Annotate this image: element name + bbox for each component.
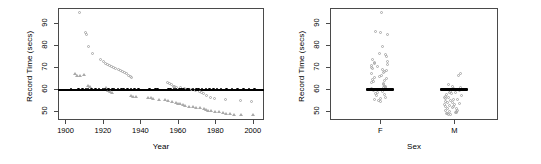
data-point-reference-60 bbox=[248, 88, 251, 91]
data-point-m bbox=[456, 98, 459, 101]
data-point-reference-60 bbox=[130, 88, 133, 91]
y-tick-label: 80 bbox=[40, 37, 49, 53]
x-tick-label-f: F bbox=[370, 126, 390, 135]
data-point-men-records bbox=[251, 113, 255, 116]
data-point-men-records bbox=[157, 98, 161, 101]
data-point-reference-60 bbox=[220, 88, 223, 91]
data-point-f bbox=[373, 98, 376, 101]
median-bar-f bbox=[366, 88, 394, 91]
data-point-m bbox=[458, 102, 461, 105]
data-point-reference-60 bbox=[242, 88, 245, 91]
sex-panel-y-axis-title: Record Time (secs) bbox=[297, 31, 306, 102]
median-bar-m bbox=[440, 88, 468, 91]
data-point-m bbox=[457, 74, 460, 77]
data-point-reference-60 bbox=[182, 88, 185, 91]
data-point-men-records bbox=[239, 113, 243, 116]
figure-canvas: Record Time (secs) Year 5060708090 19001… bbox=[0, 0, 541, 164]
data-point-reference-60 bbox=[137, 88, 140, 91]
x-tick-mark bbox=[140, 120, 141, 124]
sex-panel-x-axis-title: Sex bbox=[398, 142, 430, 151]
data-point-reference-60 bbox=[188, 88, 191, 91]
y-tick-mark bbox=[54, 45, 58, 46]
y-tick-mark bbox=[326, 111, 330, 112]
y-tick-label: 50 bbox=[312, 103, 321, 119]
data-point-f bbox=[380, 11, 383, 14]
x-tick-label-m: M bbox=[444, 126, 464, 135]
y-tick-mark bbox=[54, 111, 58, 112]
data-point-m bbox=[451, 106, 454, 109]
x-tick-mark bbox=[178, 120, 179, 124]
data-point-reference-60 bbox=[205, 88, 208, 91]
data-point-m bbox=[447, 83, 450, 86]
y-tick-label: 70 bbox=[40, 59, 49, 75]
data-point-reference-60 bbox=[133, 88, 136, 91]
data-point-m bbox=[460, 94, 463, 97]
x-tick-mark bbox=[253, 120, 254, 124]
x-tick-label: 1980 bbox=[201, 126, 229, 135]
data-point-reference-60 bbox=[197, 88, 200, 91]
y-tick-mark bbox=[326, 45, 330, 46]
data-point-reference-60 bbox=[126, 88, 129, 91]
data-point-f bbox=[371, 67, 374, 70]
data-point-f bbox=[386, 63, 389, 66]
data-point-reference-60 bbox=[122, 88, 125, 91]
y-tick-mark bbox=[326, 89, 330, 90]
data-point-f bbox=[378, 75, 381, 78]
data-point-women-records bbox=[213, 97, 216, 100]
y-tick-mark bbox=[54, 67, 58, 68]
x-tick-mark bbox=[380, 120, 381, 124]
data-point-reference-60 bbox=[148, 88, 151, 91]
year-panel-x-axis-title: Year bbox=[145, 142, 177, 151]
data-point-f bbox=[379, 31, 382, 34]
x-tick-mark bbox=[215, 120, 216, 124]
x-tick-mark bbox=[103, 120, 104, 124]
data-point-reference-60 bbox=[192, 88, 195, 91]
data-point-reference-60 bbox=[208, 88, 211, 91]
sex-panel: Record Time (secs) Sex 5060708090 FM bbox=[271, 0, 541, 164]
data-point-reference-60 bbox=[236, 88, 239, 91]
data-point-women-records bbox=[91, 52, 94, 55]
data-point-women-records bbox=[224, 98, 227, 101]
data-point-m bbox=[450, 92, 453, 95]
data-point-reference-60 bbox=[169, 88, 172, 91]
data-point-women-records bbox=[99, 58, 102, 61]
data-point-men-records bbox=[82, 73, 86, 76]
x-tick-label: 1940 bbox=[126, 126, 154, 135]
data-point-reference-60 bbox=[253, 88, 256, 91]
year-plot-frame bbox=[58, 8, 264, 120]
data-point-f bbox=[381, 45, 384, 48]
data-point-men-records bbox=[110, 91, 114, 94]
data-point-women-records bbox=[114, 67, 117, 70]
y-tick-label: 60 bbox=[40, 81, 49, 97]
y-tick-label: 70 bbox=[312, 59, 321, 75]
data-point-reference-60 bbox=[94, 88, 97, 91]
x-tick-label: 1960 bbox=[164, 126, 192, 135]
y-tick-label: 90 bbox=[312, 15, 321, 31]
data-point-reference-60 bbox=[104, 88, 107, 91]
y-tick-label: 80 bbox=[312, 37, 321, 53]
data-point-men-records bbox=[151, 97, 155, 100]
data-point-f bbox=[373, 62, 376, 65]
data-point-f bbox=[375, 94, 378, 97]
data-point-women-records bbox=[78, 11, 81, 14]
data-point-reference-60 bbox=[175, 88, 178, 91]
data-point-women-records bbox=[239, 99, 242, 102]
sex-plot-frame bbox=[330, 8, 498, 120]
x-tick-mark bbox=[65, 120, 66, 124]
data-point-reference-60 bbox=[107, 88, 110, 91]
data-point-reference-60 bbox=[81, 88, 84, 91]
y-tick-label: 90 bbox=[40, 15, 49, 31]
data-point-reference-60 bbox=[117, 88, 120, 91]
x-tick-label: 1900 bbox=[51, 126, 79, 135]
x-tick-label: 1920 bbox=[89, 126, 117, 135]
year-panel: Record Time (secs) Year 5060708090 19001… bbox=[0, 0, 271, 164]
data-point-reference-60 bbox=[87, 88, 90, 91]
year-panel-y-axis-title: Record Time (secs) bbox=[25, 31, 34, 102]
data-point-reference-60 bbox=[225, 88, 228, 91]
x-tick-label: 2000 bbox=[239, 126, 267, 135]
data-point-reference-60 bbox=[90, 88, 93, 91]
x-tick-mark bbox=[454, 120, 455, 124]
data-point-f bbox=[385, 55, 388, 58]
data-point-f bbox=[384, 96, 387, 99]
data-point-reference-60 bbox=[156, 88, 159, 91]
